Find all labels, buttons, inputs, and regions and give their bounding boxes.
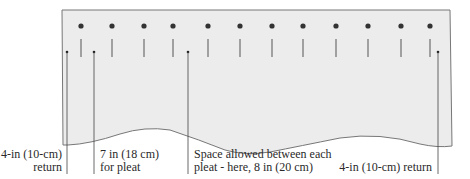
pin-head-icon <box>427 23 432 28</box>
left-return-label: 4-in (10-cm) return <box>0 148 62 174</box>
pin-head-icon <box>78 23 83 28</box>
pleat-width-label: 7 in (18 cm) for pleat <box>100 148 159 174</box>
pin-head-icon <box>269 23 274 28</box>
right-return-label-text: 4-in (10-cm) return <box>300 161 432 174</box>
pin-head-icon <box>109 23 114 28</box>
pin-head-icon <box>170 23 175 28</box>
left-return-label-line2: return <box>0 161 62 174</box>
pin-head-icon <box>300 23 305 28</box>
pin-head-icon <box>205 23 210 28</box>
right-return-label: 4-in (10-cm) return <box>300 161 432 174</box>
pin-head-icon <box>333 23 338 28</box>
pin-head-icon <box>237 23 242 28</box>
fabric-panel <box>62 10 452 154</box>
pin-head-icon <box>141 23 146 28</box>
pleat-width-label-line2: for pleat <box>100 161 159 174</box>
pin-head-icon <box>365 23 370 28</box>
pin-head-icon <box>398 23 403 28</box>
